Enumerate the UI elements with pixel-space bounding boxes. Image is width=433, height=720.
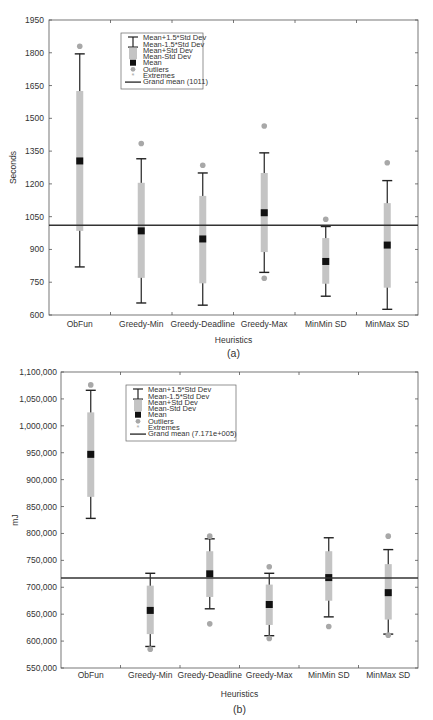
outlier-point: [266, 636, 272, 642]
box-minmax-sd: [382, 160, 392, 309]
outlier-point: [147, 646, 153, 652]
y-axis-label: mJ: [10, 514, 20, 525]
mean-marker: [147, 607, 154, 614]
legend-box-icon: [134, 400, 142, 412]
outlier-point: [261, 123, 267, 129]
legend-mean-icon: [130, 60, 136, 66]
y-tick-label: 1050: [25, 212, 44, 222]
box-greedy-deadline: [198, 163, 208, 306]
y-tick-label: 1500: [25, 113, 44, 123]
y-tick-label: 800,000: [26, 528, 57, 538]
plot-frame: [61, 372, 418, 668]
mean-marker: [87, 451, 94, 458]
x-axis-label: Heuristics: [215, 335, 252, 345]
y-tick-label: 1,100,000: [19, 367, 57, 377]
outlier-point: [138, 141, 144, 147]
mean-marker: [385, 589, 392, 596]
legend-extreme-icon: *: [137, 423, 140, 432]
mean-marker: [384, 242, 391, 249]
box-greedy-deadline: [205, 533, 215, 626]
outlier-point: [266, 564, 272, 570]
x-tick-label: MinMax SD: [366, 670, 410, 680]
outlier-point: [200, 163, 206, 169]
x-tick-label: Greedy-Deadline: [178, 670, 243, 680]
box-minmin-sd: [324, 538, 334, 630]
y-tick-label: 600: [30, 310, 44, 320]
outlier-point: [385, 533, 391, 539]
figure-caption: (b): [233, 703, 246, 715]
outlier-point: [323, 216, 329, 222]
outlier-point: [88, 382, 94, 388]
outlier-point: [384, 160, 390, 166]
outlier-point: [207, 533, 213, 539]
x-tick-label: MinMin SD: [308, 670, 350, 680]
y-tick-label: 700,000: [26, 582, 57, 592]
y-tick-label: 550,000: [26, 663, 57, 673]
outlier-point: [326, 624, 332, 630]
box-greedy-max: [259, 123, 269, 281]
box-greedy-min: [136, 141, 146, 303]
mean-marker: [261, 209, 268, 216]
x-tick-label: Greedy-Max: [246, 670, 294, 680]
y-tick-label: 1650: [25, 81, 44, 91]
outlier-point: [261, 275, 267, 281]
y-tick-label: 850,000: [26, 502, 57, 512]
y-tick-label: 1,000,000: [19, 421, 57, 431]
box-minmin-sd: [321, 216, 331, 296]
x-tick-label: MinMax SD: [365, 319, 409, 329]
legend-mean-icon: [135, 412, 141, 418]
chart-a: 6007509001050120013501500165018001950ObF…: [8, 15, 418, 359]
legend-entry-label: Grand mean (1011): [143, 77, 208, 86]
mean-marker: [206, 570, 213, 577]
y-tick-label: 1350: [25, 146, 44, 156]
y-tick-label: 1200: [25, 179, 44, 189]
y-tick-label: 750,000: [26, 555, 57, 565]
y-tick-label: 900: [30, 244, 44, 254]
mean-marker: [138, 227, 145, 234]
y-tick-label: 900,000: [26, 475, 57, 485]
mean-marker: [322, 258, 329, 265]
outlier-point: [207, 621, 213, 627]
y-axis-label: Seconds: [8, 151, 18, 184]
mean-marker: [76, 157, 83, 164]
outlier-point: [385, 632, 391, 638]
mean-marker: [199, 235, 206, 242]
legend-entry-label: Grand mean (7.171e+005): [148, 429, 237, 438]
box-minmax-sd: [383, 533, 393, 638]
mean-marker: [266, 601, 273, 608]
boxplot-figure: 6007509001050120013501500165018001950ObF…: [0, 0, 433, 720]
legend-extreme-icon: *: [132, 71, 135, 80]
legend: *Mean+1.5*Std DevMean-1.5*Std DevMean+St…: [121, 33, 208, 89]
legend: *Mean+1.5*Std DevMean-1.5*Std DevMean+St…: [126, 385, 237, 441]
plot-frame: [49, 20, 418, 315]
y-tick-label: 950,000: [26, 448, 57, 458]
y-tick-label: 650,000: [26, 609, 57, 619]
x-tick-label: Greedy-Deadline: [171, 319, 236, 329]
outlier-point: [77, 43, 83, 49]
legend-box-icon: [129, 48, 137, 60]
box-obfun: [75, 43, 85, 267]
x-tick-label: MinMin SD: [305, 319, 347, 329]
x-tick-label: ObFun: [78, 670, 104, 680]
x-tick-label: Greedy-Min: [119, 319, 164, 329]
x-tick-label: Greedy-Max: [241, 319, 289, 329]
y-tick-label: 1,050,000: [19, 394, 57, 404]
box-greedy-min: [145, 573, 155, 652]
x-tick-label: Greedy-Min: [128, 670, 173, 680]
chart-b: 550,000600,000650,000700,000750,000800,0…: [10, 367, 418, 715]
x-axis-label: Heuristics: [221, 689, 258, 699]
x-tick-label: ObFun: [67, 319, 93, 329]
y-tick-label: 600,000: [26, 636, 57, 646]
y-tick-label: 1800: [25, 48, 44, 58]
figure-caption: (a): [227, 347, 240, 359]
y-tick-label: 1950: [25, 15, 44, 25]
box-greedy-max: [264, 564, 274, 641]
y-tick-label: 750: [30, 277, 44, 287]
box-obfun: [86, 382, 96, 518]
